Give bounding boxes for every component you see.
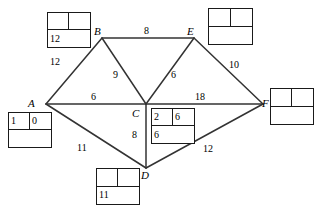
edge-weight-a-d: 11 (77, 143, 87, 153)
label-box-b-top-row (48, 13, 90, 30)
label-box-c-top-left-cell: 2 (152, 109, 173, 125)
label-box-d-bottom-cell: 11 (97, 187, 139, 205)
label-box-d-top-left-cell (97, 169, 118, 186)
node-label-f: F (262, 98, 269, 109)
edge-weight-c-f: 18 (195, 92, 205, 102)
label-box-c: 266 (151, 108, 195, 144)
label-box-e-top-right-cell (231, 9, 253, 26)
label-box-b-top-right-cell (69, 13, 90, 29)
node-label-b: B (94, 26, 101, 37)
node-label-e: E (187, 26, 194, 37)
edge-weight-c-e: 6 (171, 70, 176, 80)
label-box-d-top-right-cell (118, 169, 139, 186)
label-box-a-top-left-cell: 1 (9, 113, 30, 129)
label-box-e-top-row (209, 9, 252, 27)
graph-edge-a-d (46, 104, 146, 168)
graph-edge-c-e (146, 38, 194, 104)
label-box-b: 12 (47, 12, 91, 48)
label-box-f-bottom-cell (271, 107, 313, 125)
label-box-a-top-right-cell: 0 (30, 113, 51, 129)
label-box-a: 10 (8, 112, 52, 148)
edge-weight-c-d: 8 (132, 130, 137, 140)
label-box-c-bottom-row: 6 (152, 126, 194, 143)
label-box-e-bottom-row (209, 27, 252, 45)
edge-weight-a-c: 6 (91, 92, 96, 102)
label-box-a-bottom-row (9, 130, 51, 147)
label-box-d-bottom-row: 11 (97, 187, 139, 205)
label-box-a-top-row: 10 (9, 113, 51, 130)
label-box-c-top-right-cell: 6 (173, 109, 194, 125)
edge-weight-e-f: 10 (229, 60, 239, 70)
graph-diagram-canvas: ABCDEF 128961061811812 121026611 (0, 0, 316, 215)
label-box-f-bottom-row (271, 107, 313, 125)
label-box-b-bottom-row: 12 (48, 30, 90, 47)
edge-weight-b-c: 9 (113, 70, 118, 80)
label-box-c-top-row: 26 (152, 109, 194, 126)
edge-weight-d-f: 12 (203, 144, 213, 154)
label-box-c-bottom-cell: 6 (152, 126, 194, 143)
label-box-f-top-right-cell (292, 89, 313, 106)
label-box-e-bottom-cell (209, 27, 252, 45)
label-box-f-top-row (271, 89, 313, 107)
label-box-e-top-left-cell (209, 9, 231, 26)
label-box-a-bottom-cell (9, 130, 51, 147)
node-label-d: D (141, 170, 149, 181)
node-label-a: A (28, 98, 35, 109)
node-label-c: C (132, 108, 139, 119)
label-box-d: 11 (96, 168, 140, 205)
graph-edge-b-c (102, 38, 146, 104)
label-box-f-top-left-cell (271, 89, 292, 106)
label-box-d-top-row (97, 169, 139, 187)
edge-weight-a-b: 12 (50, 57, 60, 67)
label-box-e (208, 8, 253, 45)
label-box-f (270, 88, 314, 125)
label-box-b-bottom-cell: 12 (48, 30, 90, 47)
label-box-b-top-left-cell (48, 13, 69, 29)
edge-weight-b-e: 8 (144, 26, 149, 36)
